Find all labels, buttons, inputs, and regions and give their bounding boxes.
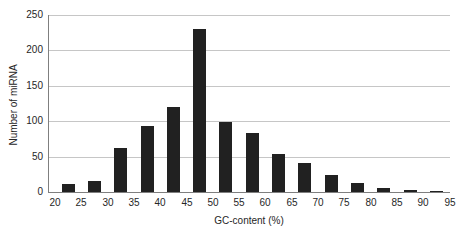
bar [246,133,259,192]
x-axis-title: GC-content (%) [48,215,450,226]
x-tick-label: 65 [279,197,305,209]
x-tick-label: 20 [42,197,68,209]
x-axis-line [48,192,450,193]
x-tick-label: 95 [437,197,463,209]
y-axis-title: Number of miRNA [7,15,21,195]
bar [88,181,101,192]
bar [325,175,338,192]
x-tick-label: 60 [252,197,278,209]
y-tick-label: 150 [13,80,43,92]
bar [351,183,364,192]
gridline [48,86,450,87]
bar [298,163,311,192]
x-tick-label: 35 [121,197,147,209]
y-tick-label: 0 [13,186,43,198]
bar [62,184,75,192]
bar [114,148,127,192]
x-tick-label: 40 [147,197,173,209]
x-tick-label: 75 [331,197,357,209]
gridline [48,15,450,16]
y-axis-line [48,15,49,192]
y-tick-label: 250 [13,9,43,21]
x-tick-label: 50 [200,197,226,209]
gridline [48,50,450,51]
x-tick-label: 80 [358,197,384,209]
x-tick-label: 55 [226,197,252,209]
gridline [48,121,450,122]
bar [272,154,285,192]
x-tick-label: 25 [68,197,94,209]
x-tick-label: 85 [384,197,410,209]
bar-chart: Number of miRNA 050100150200250 20253035… [0,0,467,239]
y-tick-label: 50 [13,151,43,163]
x-tick-label: 90 [410,197,436,209]
bar [193,29,206,192]
x-tick-label: 30 [95,197,121,209]
bar [167,107,180,192]
bar [141,126,154,192]
y-tick-label: 200 [13,44,43,56]
bar [219,122,232,192]
x-tick-label: 70 [305,197,331,209]
y-tick-label: 100 [13,115,43,127]
x-tick-label: 45 [174,197,200,209]
